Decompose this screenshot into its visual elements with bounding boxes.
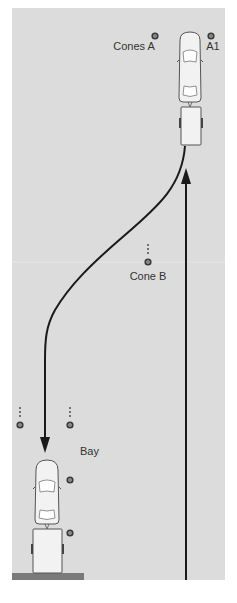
label-cones-a: Cones A (113, 40, 155, 52)
cone-icon-bay-side-upper (66, 476, 73, 483)
cone-icon-bay-left (16, 421, 23, 428)
cone-icon-a1 (207, 32, 214, 39)
cone-icon-bay-side-lower (66, 529, 73, 536)
cone-icon-b (144, 258, 151, 265)
car-start-position (177, 32, 203, 145)
label-bay: Bay (80, 445, 99, 457)
label-cone-b: Cone B (130, 270, 167, 282)
diagram-canvas: Cones A A1 Cone B Bay (0, 0, 237, 603)
cone-icon-cones-a (151, 32, 158, 39)
bay-end-bar (12, 573, 84, 580)
cone-icon-bay-right (66, 421, 73, 428)
label-a1: A1 (206, 40, 219, 52)
